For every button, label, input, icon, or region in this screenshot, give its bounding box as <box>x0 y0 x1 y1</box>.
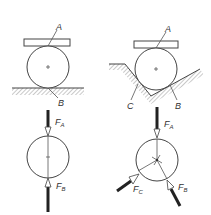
force-fa-arrow <box>154 107 160 138</box>
top-plate <box>134 41 178 48</box>
ground-hatch <box>12 88 84 95</box>
statics-diagram: A B A C B FA <box>0 0 211 215</box>
force-fa-arrow <box>45 110 51 136</box>
top-plate <box>24 39 70 46</box>
force-fa-label: FA <box>55 117 65 128</box>
label-c: C <box>127 101 134 111</box>
force-fb-label: FB <box>178 182 188 193</box>
groove-fbd-panel: FA FC FB <box>117 107 188 206</box>
flat-support-panel: A B <box>12 22 84 108</box>
force-fa-label: FA <box>164 119 174 130</box>
force-fc-label: FC <box>133 184 144 195</box>
force-fb-label: FB <box>56 181 66 192</box>
label-b: B <box>175 101 181 111</box>
label-a: A <box>164 24 171 34</box>
flat-fbd-panel: FA FB <box>27 110 69 212</box>
label-b: B <box>58 98 64 108</box>
leader-c <box>131 84 138 100</box>
force-fb-arrow <box>45 178 51 212</box>
label-a: A <box>55 22 62 32</box>
v-groove-panel: A C B <box>109 24 204 111</box>
